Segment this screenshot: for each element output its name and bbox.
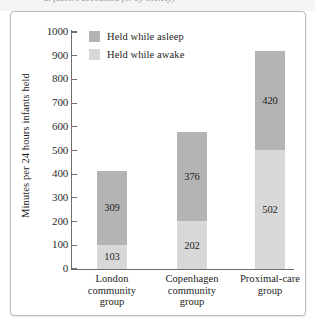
y-axis-tick <box>72 245 77 246</box>
y-axis-tick <box>72 103 77 104</box>
bar-group[interactable]: 420502 <box>255 51 285 270</box>
bar-group[interactable]: 376202 <box>177 132 207 269</box>
bar-segment-awake[interactable]: 103 <box>97 245 127 269</box>
bar-segment-asleep[interactable]: 376 <box>177 132 207 221</box>
x-axis-category-label: Proximal-caregroup <box>224 273 315 296</box>
bar-value-label: 202 <box>184 240 199 251</box>
bar-value-label: 309 <box>104 202 119 213</box>
bar-segment-awake[interactable]: 502 <box>255 150 285 269</box>
bar-value-label: 502 <box>262 204 277 215</box>
x-axis-category-label-line: group <box>66 296 158 308</box>
y-axis-tick <box>72 197 77 198</box>
x-axis-category-label: Londoncommunitygroup <box>66 273 158 308</box>
bar-segment-awake[interactable]: 202 <box>177 221 207 269</box>
figure-frame: Minutes per 24 hours infants held 100090… <box>10 11 306 316</box>
y-axis-tick <box>72 150 77 151</box>
y-axis-tick <box>72 174 77 175</box>
cutoff-caption-strip: al factors accounted for by society) <box>0 0 315 11</box>
bar-series-container: 309103Londoncommunitygroup376202Copenhag… <box>11 12 307 317</box>
bar-segment-asleep[interactable]: 420 <box>255 51 285 151</box>
x-axis-category-label-line: community <box>66 285 158 297</box>
x-axis-category-label-line: group <box>146 296 238 308</box>
cutoff-caption-text: al factors accounted for by society) <box>44 0 175 3</box>
y-axis-tick <box>72 268 77 269</box>
bar-value-label: 376 <box>184 171 199 182</box>
bar-group[interactable]: 309103 <box>97 171 127 269</box>
x-axis-category-label-line: group <box>224 285 315 297</box>
y-axis-tick <box>72 221 77 222</box>
y-axis-tick <box>72 55 77 56</box>
chart-plot-area: Minutes per 24 hours infants held 100090… <box>11 12 307 317</box>
y-axis-tick <box>72 126 77 127</box>
bar-value-label: 103 <box>104 251 119 262</box>
bar-value-label: 420 <box>262 95 277 106</box>
y-axis-tick <box>72 31 77 32</box>
bar-segment-asleep[interactable]: 309 <box>97 171 127 244</box>
y-axis-tick <box>72 79 77 80</box>
x-axis-category-label-line: London <box>66 273 158 285</box>
x-axis-category-label-line: Proximal-care <box>224 273 315 285</box>
